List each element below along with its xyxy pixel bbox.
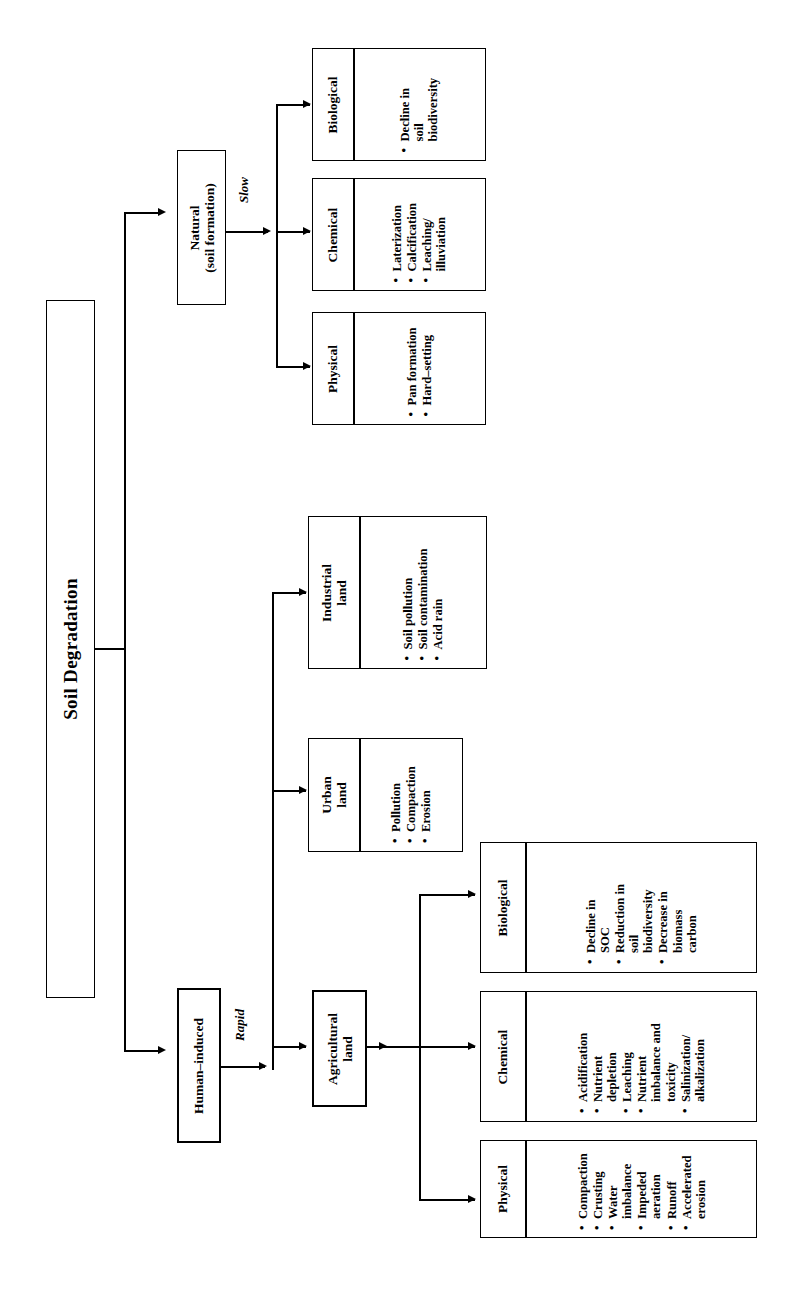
arrowhead-natural-biological (303, 100, 311, 108)
category-natural-biological-label: Biological (325, 76, 340, 133)
list-item: Impeded aeration (634, 1148, 662, 1230)
arrowhead-natural-chemical (303, 227, 311, 235)
arrowhead-root-to-human (158, 1046, 166, 1054)
list-item: Nutrient depletion (591, 1001, 619, 1113)
list-item: Compaction (575, 1148, 589, 1230)
rate-label-slow: Slow (237, 177, 252, 203)
natural-stem (226, 231, 268, 233)
list-item: Hard–setting (420, 321, 434, 416)
branch-natural-label-line1: Natural (186, 205, 201, 250)
list-item: Decline in soil biodiversity (398, 57, 440, 152)
arrowhead-human-agricultural (299, 1042, 307, 1050)
rate-label-rapid: Rapid (233, 1009, 248, 1041)
category-box-urban-land: Urban land (308, 738, 360, 852)
connector-root-to-human (124, 1050, 162, 1052)
arrowhead-agricultural-stem (379, 1042, 387, 1050)
list-item: Runoff (664, 1148, 678, 1230)
industrial-label-line2: land (334, 580, 349, 606)
arrowhead-human-urban (299, 786, 307, 794)
connector-ag-physical (419, 1199, 475, 1201)
list-item: Crusting (590, 1148, 604, 1230)
diagram-canvas: Soil Degradation Natural (soil formation… (0, 0, 800, 1311)
list-item: Decline in SOC (584, 852, 612, 964)
category-industrial-land-label: Industrial land (319, 564, 349, 622)
items-box-ag-physical: Compaction Crusting Water imbalance Impe… (526, 1140, 757, 1238)
list-item: Salinization/ alkalization (678, 1001, 706, 1113)
branch-natural-label-line2: (soil formation) (202, 183, 217, 273)
list-item: Leaching (620, 1001, 634, 1113)
arrowhead-human-industrial (299, 588, 307, 596)
list-item: Erosion (419, 747, 433, 843)
list-item: Accelerated erosion (679, 1148, 707, 1230)
items-box-natural-physical: Pan formation Hard–setting (354, 312, 486, 425)
agricultural-label-line1: Agricultural (324, 1013, 339, 1085)
list-item: Nutrient imbalance and toxicity (635, 1001, 677, 1113)
category-urban-land-label: Urban land (319, 776, 349, 814)
human-induced-spine (272, 592, 274, 1070)
branch-box-human-induced: Human–induced (177, 988, 221, 1143)
list-item: Reduction in soil biodiversity (613, 852, 655, 964)
root-stem (95, 648, 125, 650)
category-ag-chemical-label: Chemical (495, 1029, 510, 1084)
items-box-industrial-land: Soil pollution Soil contamination Acid r… (360, 516, 487, 669)
category-natural-chemical-label: Chemical (325, 207, 340, 262)
list-item: Pollution (389, 747, 403, 843)
list-item: Water imbalance (605, 1148, 633, 1230)
category-box-ag-chemical: Chemical (480, 991, 526, 1122)
items-list-natural-chemical: Laterization Calcification Leaching/ ill… (390, 187, 449, 282)
branch-human-induced-label: Human–induced (191, 1017, 206, 1113)
list-item: Decrease in biomass carbon (656, 852, 698, 964)
list-item: Soil pollution (401, 525, 415, 660)
items-list-industrial-land: Soil pollution Soil contamination Acid r… (401, 525, 446, 660)
items-box-ag-biological: Decline in SOC Reduction in soil biodive… (526, 842, 757, 973)
category-box-ag-biological: Biological (480, 842, 526, 973)
root-box-soil-degradation: Soil Degradation (46, 300, 95, 998)
connector-root-to-natural (124, 212, 162, 214)
agricultural-stem (367, 1046, 420, 1048)
items-list-natural-physical: Pan formation Hard–setting (405, 321, 435, 416)
arrowhead-natural-physical (303, 362, 311, 370)
category-box-ag-physical: Physical (480, 1140, 526, 1238)
category-ag-physical-label: Physical (495, 1165, 510, 1213)
connector-ag-biological (419, 894, 475, 896)
items-list-ag-physical: Compaction Crusting Water imbalance Impe… (575, 1148, 708, 1230)
category-ag-biological-label: Biological (495, 879, 510, 936)
urban-label-line2: land (334, 782, 349, 808)
list-item: Soil contamination (416, 525, 430, 660)
root-box-label: Soil Degradation (60, 578, 81, 720)
arrowhead-human-induced-stem (259, 1062, 267, 1070)
category-natural-physical-label: Physical (325, 344, 340, 392)
category-box-agricultural-land: Agricultural land (312, 990, 367, 1107)
category-box-natural-physical: Physical (312, 312, 354, 425)
industrial-label-line1: Industrial (319, 564, 334, 622)
root-spine (124, 212, 126, 1052)
items-box-ag-chemical: Acidification Nutrient depletion Leachin… (526, 991, 757, 1122)
list-item: Acid rain (431, 525, 445, 660)
agricultural-label-line2: land (340, 1036, 355, 1062)
list-item: Acidification (576, 1001, 590, 1113)
category-agricultural-land-label: Agricultural land (324, 1013, 354, 1085)
list-item: Leaching/ illuviation (421, 187, 449, 282)
arrowhead-ag-chemical (468, 1042, 476, 1050)
items-box-natural-chemical: Laterization Calcification Leaching/ ill… (354, 178, 486, 291)
items-list-urban-land: Pollution Compaction Erosion (389, 747, 434, 843)
urban-label-line1: Urban (319, 776, 334, 814)
branch-box-natural: Natural (soil formation) (177, 150, 226, 305)
arrowhead-ag-biological (468, 890, 476, 898)
category-box-natural-chemical: Chemical (312, 178, 354, 291)
arrowhead-natural-stem (263, 227, 271, 235)
natural-spine (276, 104, 278, 366)
branch-natural-label: Natural (soil formation) (186, 183, 216, 273)
items-box-urban-land: Pollution Compaction Erosion (360, 738, 463, 852)
arrowhead-root-to-natural (158, 208, 166, 216)
list-item: Pan formation (405, 321, 419, 416)
connector-ag-chemical (419, 1046, 475, 1048)
category-box-natural-biological: Biological (312, 48, 354, 161)
items-list-ag-biological: Decline in SOC Reduction in soil biodive… (584, 852, 700, 964)
list-item: Calcification (405, 187, 419, 282)
arrowhead-ag-physical (468, 1195, 476, 1203)
list-item: Laterization (390, 187, 404, 282)
list-item: Compaction (404, 747, 418, 843)
items-box-natural-biological: Decline in soil biodiversity (354, 48, 486, 161)
items-list-natural-biological: Decline in soil biodiversity (398, 57, 441, 152)
